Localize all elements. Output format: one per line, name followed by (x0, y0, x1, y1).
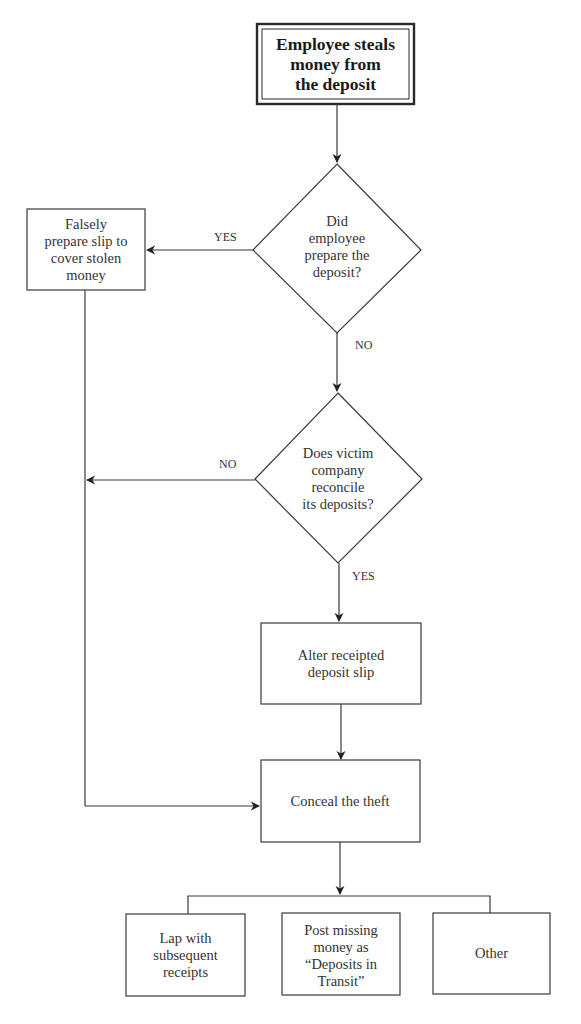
other-line-1: Other (475, 945, 508, 961)
alter-line-2: deposit slip (308, 664, 374, 680)
start-line-3: the deposit (295, 74, 376, 94)
start-line-1: Employee steals (276, 34, 395, 54)
label-d2-no: NO (219, 457, 237, 471)
lap-line-3: receipts (163, 964, 208, 980)
decision-victim-reconciles-deposits: Does victim company reconcile its deposi… (255, 393, 422, 563)
lap-line-2: subsequent (153, 947, 217, 963)
lap-line-1: Lap with (160, 930, 213, 946)
outcome-deposits-in-transit-node: Post missing money as “Deposits in Trans… (282, 913, 400, 995)
label-d1-no: NO (355, 338, 373, 352)
label-d1-yes: YES (214, 230, 237, 244)
falsely-prepare-node: Falsely prepare slip to cover stolen mon… (27, 209, 145, 290)
decision2-line-2: company (311, 462, 365, 478)
post-line-1: Post missing (304, 922, 378, 938)
alter-line-1: Alter receipted (298, 647, 385, 663)
outcome-other-node: Other (433, 913, 550, 994)
falsely-line-4: money (66, 267, 106, 283)
falsely-line-3: cover stolen (51, 250, 122, 266)
falsely-line-2: prepare slip to (45, 233, 128, 249)
post-line-2: money as (313, 939, 369, 955)
decision1-line-4: deposit? (313, 264, 361, 280)
post-line-3: “Deposits in (305, 956, 378, 972)
post-line-4: Transit” (318, 973, 365, 989)
decision2-line-3: reconcile (311, 479, 364, 495)
start-line-2: money from (290, 54, 381, 74)
label-d2-yes: YES (352, 569, 375, 583)
decision2-line-4: its deposits? (302, 496, 373, 512)
alter-deposit-slip-node: Alter receipted deposit slip (261, 623, 421, 704)
conceal-theft-node: Conceal the theft (261, 760, 420, 842)
outcome-bus (188, 896, 490, 914)
outcome-lap-node: Lap with subsequent receipts (126, 914, 245, 996)
decision2-line-1: Does victim (303, 445, 374, 461)
start-node: Employee steals money from the deposit (257, 24, 414, 104)
decision1-line-2: employee (309, 230, 365, 246)
decision-employee-prepared-deposit: Did employee prepare the deposit? (253, 164, 421, 333)
falsely-line-1: Falsely (65, 216, 108, 232)
conceal-line-1: Conceal the theft (290, 793, 389, 809)
decision1-line-1: Did (326, 213, 349, 229)
decision1-line-3: prepare the (305, 247, 370, 263)
flowchart: Employee steals money from the deposit D… (0, 0, 581, 1024)
